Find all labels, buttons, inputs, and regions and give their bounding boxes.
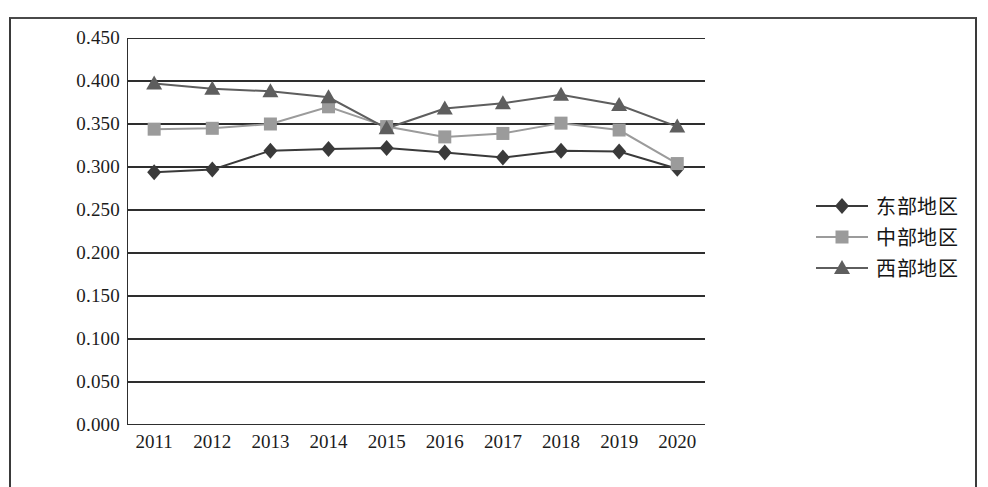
diamond-data-marker <box>835 198 849 214</box>
legend-label-east: 东部地区 <box>876 191 958 220</box>
square-data-marker <box>206 122 219 135</box>
x-axis-tick-label: 2014 <box>310 431 348 453</box>
series-line <box>154 84 677 129</box>
y-axis-tick-label: 0.250 <box>76 199 120 221</box>
x-axis-tick-label: 2020 <box>658 431 696 453</box>
series-line <box>154 107 677 164</box>
y-axis-tick-label: 0.300 <box>76 156 120 178</box>
x-axis-tick-label: 2013 <box>251 431 289 453</box>
legend-label-west: 西部地区 <box>876 253 958 282</box>
y-axis-tick-label: 0.450 <box>76 27 120 49</box>
diamond-data-marker <box>205 162 219 178</box>
plot-area <box>127 38 705 425</box>
diamond-data-marker <box>322 141 336 157</box>
x-axis-tick-labels: 2011201220132014201520162017201820192020 <box>127 429 705 463</box>
y-axis-tick-label: 0.150 <box>76 285 120 307</box>
y-axis-tick-label: 0.400 <box>76 70 120 92</box>
y-axis-tick-label: 0.000 <box>76 414 120 436</box>
square-marker-icon <box>815 228 869 246</box>
triangle-data-marker <box>669 119 685 133</box>
diamond-marker-icon <box>815 197 869 215</box>
x-axis-tick-label: 2012 <box>193 431 231 453</box>
y-axis-tick-label: 0.050 <box>76 371 120 393</box>
series-canvas <box>127 38 705 425</box>
square-data-marker <box>555 117 568 130</box>
chart-legend: 东部地区 中部地区 西部地区 <box>815 190 975 283</box>
diamond-data-marker <box>612 144 626 160</box>
y-axis-tick-label: 0.200 <box>76 242 120 264</box>
diamond-data-marker <box>554 143 568 159</box>
plot-wrapper: 0.4500.4000.3500.3000.2500.2000.1500.100… <box>0 0 760 466</box>
x-axis-tick-label: 2017 <box>484 431 522 453</box>
square-data-marker <box>438 130 451 143</box>
square-data-marker <box>836 230 849 243</box>
triangle-data-marker <box>553 87 569 101</box>
triangle-data-marker <box>146 76 162 90</box>
x-axis-tick-label: 2015 <box>368 431 406 453</box>
legend-label-central: 中部地区 <box>876 222 958 251</box>
legend-item-east[interactable]: 东部地区 <box>815 190 975 221</box>
triangle-marker-icon <box>815 259 869 277</box>
diamond-data-marker <box>263 143 277 159</box>
legend-item-west[interactable]: 西部地区 <box>815 252 975 283</box>
diamond-data-marker <box>438 144 452 160</box>
x-axis-tick-label: 2019 <box>600 431 638 453</box>
x-axis-tick-label: 2011 <box>136 431 173 453</box>
square-data-marker <box>264 118 277 131</box>
square-data-marker <box>671 157 684 170</box>
square-data-marker <box>496 127 509 140</box>
y-axis-tick-label: 0.350 <box>76 113 120 135</box>
y-axis-tick-labels: 0.4500.4000.3500.3000.2500.2000.1500.100… <box>34 0 120 466</box>
square-data-marker <box>613 124 626 137</box>
x-axis-tick-label: 2018 <box>542 431 580 453</box>
y-axis-tick-label: 0.100 <box>76 328 120 350</box>
diamond-data-marker <box>496 150 510 166</box>
series-line <box>154 148 677 172</box>
square-data-marker <box>148 123 161 136</box>
x-axis-tick-label: 2016 <box>426 431 464 453</box>
legend-item-central[interactable]: 中部地区 <box>815 221 975 252</box>
diamond-data-marker <box>380 140 394 156</box>
